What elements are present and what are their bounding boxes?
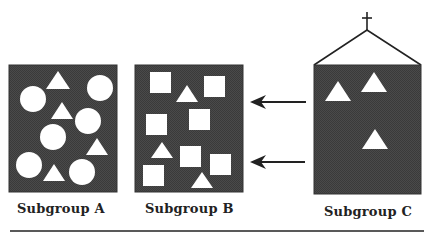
square-icon: [210, 154, 231, 175]
circle-icon: [16, 152, 42, 178]
circle-icon: [69, 159, 95, 185]
circle-icon: [40, 124, 66, 150]
label-subgroup-c: Subgroup C: [324, 204, 412, 219]
subgroup-a-box: [9, 65, 117, 192]
circle-icon: [75, 108, 101, 134]
cross-icon: [362, 12, 372, 30]
square-icon: [204, 76, 225, 97]
church-roof: [314, 30, 421, 65]
label-subgroup-b: Subgroup B: [145, 201, 234, 216]
subgroup-c-church: [314, 12, 421, 194]
square-icon: [146, 114, 167, 135]
square-icon: [180, 146, 201, 167]
square-icon: [143, 165, 164, 186]
circle-icon: [20, 86, 46, 112]
square-icon: [150, 72, 171, 93]
square-icon: [189, 109, 210, 130]
arrows: [250, 95, 306, 169]
subgroup-b-box: [135, 65, 243, 192]
circle-icon: [87, 75, 113, 101]
label-subgroup-a: Subgroup A: [17, 201, 105, 216]
